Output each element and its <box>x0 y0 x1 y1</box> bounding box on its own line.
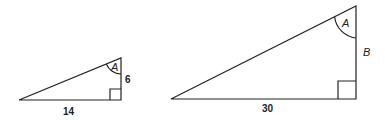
small-right-angle-marker <box>110 89 121 100</box>
small-base-label: 14 <box>63 106 75 117</box>
large-triangle-outline <box>171 6 356 99</box>
large-triangle <box>171 6 356 99</box>
small-triangle <box>19 58 121 100</box>
large-base-label: 30 <box>262 103 274 114</box>
small-height-label: 6 <box>125 74 131 85</box>
small-angle-label: A <box>110 61 118 73</box>
large-angle-label: A <box>341 17 349 29</box>
large-right-angle-marker <box>338 81 356 99</box>
large-height-label: B <box>363 46 370 58</box>
triangles-svg: A 6 14 A B 30 <box>0 0 385 120</box>
diagram-canvas: A 6 14 A B 30 <box>0 0 385 120</box>
small-triangle-outline <box>19 58 121 100</box>
